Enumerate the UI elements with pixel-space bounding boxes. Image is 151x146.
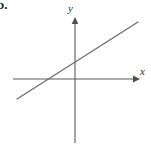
figure-panel: b. y x: [0, 0, 151, 146]
x-axis-arrow-icon: [133, 76, 140, 83]
cartesian-plot: [0, 0, 151, 146]
plotted-line-series: [17, 22, 138, 99]
x-axis-label: x: [140, 66, 145, 77]
y-axis-arrow-icon: [72, 17, 79, 24]
y-axis-label: y: [68, 3, 73, 14]
